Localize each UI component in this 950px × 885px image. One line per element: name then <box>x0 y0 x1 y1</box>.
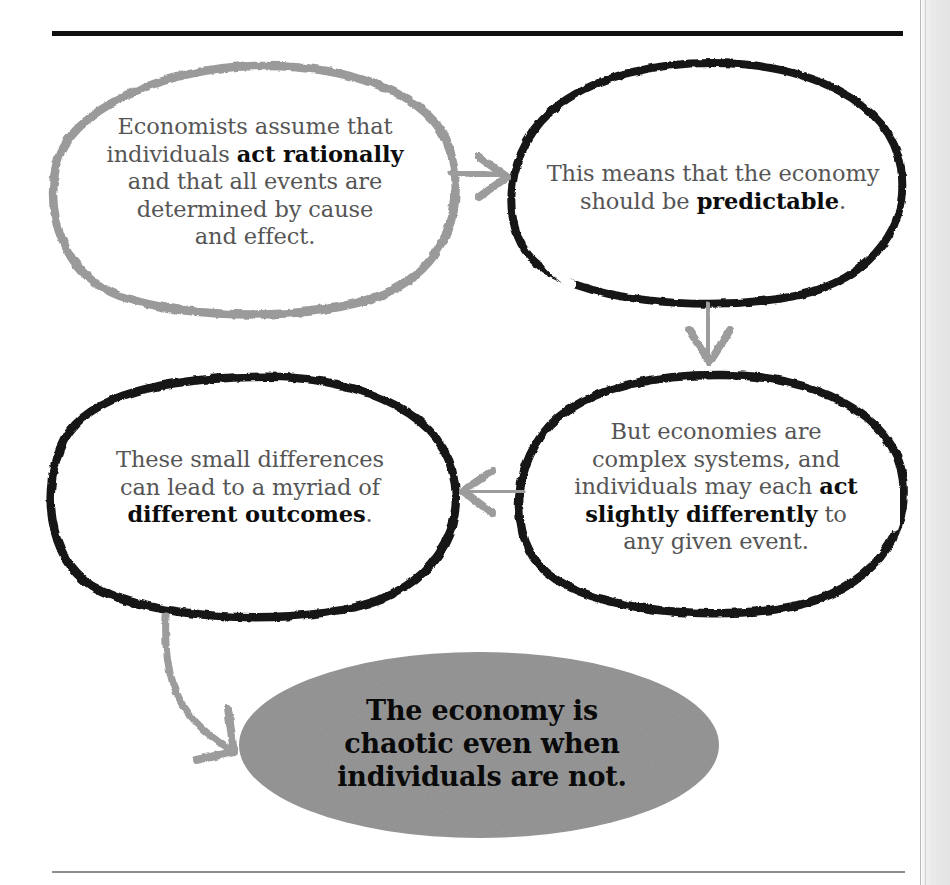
node-2-text: This means that the economyshould be pre… <box>530 160 896 215</box>
node-4-text: These small differencescan lead to a myr… <box>100 446 400 529</box>
node-5-text: The economy ischaotic even whenindividua… <box>262 694 702 793</box>
page-canvas: g <box>0 0 950 885</box>
arrow-3-left <box>463 471 522 513</box>
node-3-text: But economies arecomplex systems, andind… <box>542 418 890 556</box>
node-1-text: Economists assume thatindividuals act ra… <box>75 113 435 251</box>
arrow-4-curved <box>166 616 234 760</box>
arrow-2-down <box>689 305 730 362</box>
